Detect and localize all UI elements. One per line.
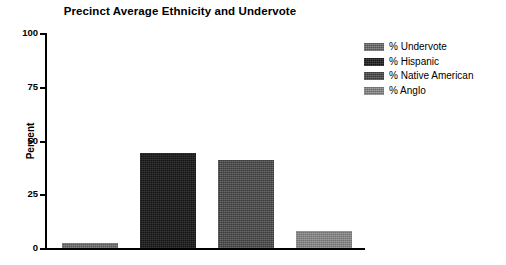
y-tick-label: 25 bbox=[27, 190, 38, 200]
chart-legend: % Undervote% Hispanic% Native American% … bbox=[364, 40, 504, 98]
y-tick-mark bbox=[40, 248, 45, 250]
y-tick-label: 50 bbox=[27, 136, 38, 146]
bar-chart-figure: Precinct Average Ethnicity and Undervote… bbox=[0, 0, 506, 265]
legend-label: % Anglo bbox=[389, 86, 426, 96]
bar-undervote[interactable] bbox=[62, 243, 118, 248]
legend-swatch-icon bbox=[364, 72, 384, 80]
y-tick-mark bbox=[40, 194, 45, 196]
y-tick-label: 100 bbox=[22, 28, 38, 38]
legend-swatch-icon bbox=[364, 43, 384, 51]
y-tick-label: 75 bbox=[27, 82, 38, 92]
y-axis-line bbox=[45, 33, 47, 248]
legend-label: % Native American bbox=[389, 71, 473, 81]
legend-label: % Undervote bbox=[389, 42, 447, 52]
chart-title: Precinct Average Ethnicity and Undervote bbox=[0, 5, 360, 17]
legend-swatch-icon bbox=[364, 87, 384, 95]
y-tick-label: 0 bbox=[33, 243, 38, 253]
bar-hispanic[interactable] bbox=[140, 153, 196, 248]
bar-native-american[interactable] bbox=[218, 160, 274, 248]
y-tick-mark bbox=[40, 87, 45, 89]
legend-item[interactable]: % Native American bbox=[364, 69, 504, 84]
legend-label: % Hispanic bbox=[389, 57, 439, 67]
bar-anglo[interactable] bbox=[296, 231, 352, 248]
plot-area: Percent 0255075100 bbox=[45, 33, 365, 248]
x-axis-line bbox=[45, 248, 365, 250]
y-tick-mark bbox=[40, 141, 45, 143]
legend-item[interactable]: % Hispanic bbox=[364, 55, 504, 70]
legend-swatch-icon bbox=[364, 58, 384, 66]
y-tick-mark bbox=[40, 33, 45, 35]
legend-item[interactable]: % Undervote bbox=[364, 40, 504, 55]
legend-item[interactable]: % Anglo bbox=[364, 84, 504, 99]
